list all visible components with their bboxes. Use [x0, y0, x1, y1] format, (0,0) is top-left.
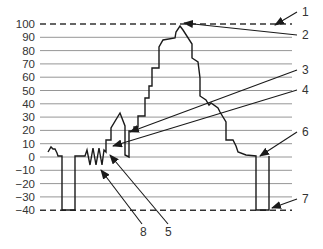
callout-label-8: 8 — [140, 225, 147, 239]
tick-label: 90 — [22, 31, 35, 43]
tick-label: 40 — [22, 98, 35, 110]
tick-label: −20 — [15, 178, 35, 190]
tick-label: 20 — [22, 124, 35, 136]
tick-label: 0 — [29, 151, 35, 163]
tick-label: 100 — [16, 18, 35, 30]
callout-label-2: 2 — [302, 28, 309, 42]
callout-label-1: 1 — [302, 5, 309, 19]
callout-label-4: 4 — [302, 83, 309, 97]
callout-arrows — [101, 12, 297, 224]
tick-label: 80 — [22, 45, 35, 57]
callout-label-6: 6 — [302, 125, 309, 139]
tick-label: 30 — [22, 111, 35, 123]
tick-label: −30 — [15, 191, 35, 203]
callout-arrow-2 — [184, 23, 297, 35]
callout-label-5: 5 — [165, 225, 172, 239]
tick-label: 10 — [22, 138, 35, 150]
callout-arrow-3 — [130, 70, 297, 132]
tick-label: 50 — [22, 85, 35, 97]
callout-label-7: 7 — [302, 192, 309, 206]
waveform-trace — [48, 26, 269, 210]
tick-label: −10 — [15, 164, 35, 176]
tick-label: −40 — [15, 204, 35, 216]
callout-arrow-7 — [272, 199, 297, 208]
gridlines — [40, 24, 292, 210]
tick-label: 70 — [22, 58, 35, 70]
tick-label: 60 — [22, 71, 35, 83]
callout-label-3: 3 — [302, 63, 309, 77]
callout-arrow-1 — [275, 12, 297, 25]
callout-arrow-5 — [110, 155, 168, 224]
y-axis-tick-labels: 1009080706050403020100−10−20−30−40 — [15, 18, 35, 216]
waveform-diagram: 1009080706050403020100−10−20−30−40 12345… — [0, 0, 323, 249]
callout-arrow-4 — [113, 90, 297, 146]
